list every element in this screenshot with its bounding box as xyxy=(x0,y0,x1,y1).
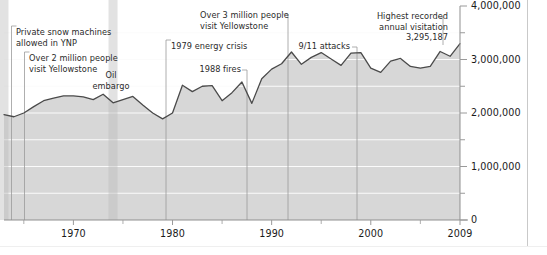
annotation-private-snow-machines-line1: Private snow machines xyxy=(16,27,111,38)
y-tick-label-0: 0 xyxy=(471,214,477,225)
annotation-over-3-million-line2: visit Yellowstone xyxy=(200,21,289,32)
annotation-highest-recorded: Highest recorded annual visitation 3,295… xyxy=(363,11,448,43)
annotation-over-3-million: Over 3 million people visit Yellowstone xyxy=(200,10,289,31)
y-tick-label-4000000: 4,000,000 xyxy=(471,0,521,11)
annotation-highest-recorded-line1: Highest recorded xyxy=(363,11,448,22)
annotation-over-2-million-line1: Over 2 million people xyxy=(29,53,118,64)
annotation-1979-energy-crisis: 1979 energy crisis xyxy=(171,41,247,52)
panel-bottom-edge xyxy=(0,246,547,247)
annotation-1988-fires: 1988 fires xyxy=(163,64,241,75)
annotation-over-3-million-line1: Over 3 million people xyxy=(200,10,289,21)
x-tick-label-2000: 2000 xyxy=(355,228,387,239)
annotation-private-snow-machines: Private snow machines allowed in YNP xyxy=(16,27,111,48)
x-tick-label-1980: 1980 xyxy=(157,228,189,239)
annotation-highest-recorded-value: 3,295,187 xyxy=(363,32,448,43)
annotation-911-attacks-line1: 9/11 attacks xyxy=(278,41,350,52)
annotation-1979-energy-crisis-line1: 1979 energy crisis xyxy=(171,41,247,52)
panel-right-border xyxy=(527,0,528,247)
y-tick-label-3000000: 3,000,000 xyxy=(471,54,521,65)
annotation-oil-embargo-line1: Oil xyxy=(88,70,134,81)
annotation-oil-embargo: Oil embargo xyxy=(88,70,134,91)
x-tick-label-2009: 2009 xyxy=(444,228,476,239)
annotation-highest-recorded-line2: annual visitation xyxy=(363,22,448,33)
visitation-chart-figure: 4,000,000 3,000,000 2,000,000 1,000,000 … xyxy=(0,0,547,255)
annotation-1988-fires-line1: 1988 fires xyxy=(163,64,241,75)
annotation-oil-embargo-line2: embargo xyxy=(88,81,134,92)
annotation-private-snow-machines-line2: allowed in YNP xyxy=(16,38,111,49)
x-tick-label-1970: 1970 xyxy=(57,228,89,239)
highlight-band-snow-machines-band xyxy=(0,0,9,220)
annotation-911-attacks: 9/11 attacks xyxy=(278,41,350,52)
y-tick-label-2000000: 2,000,000 xyxy=(471,107,521,118)
x-tick-label-1990: 1990 xyxy=(256,228,288,239)
y-tick-label-1000000: 1,000,000 xyxy=(471,161,521,172)
